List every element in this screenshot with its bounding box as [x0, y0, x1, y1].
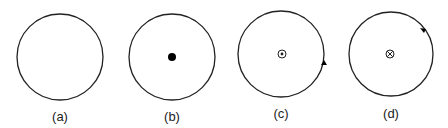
- circle-d: [349, 12, 433, 96]
- circle-a: [17, 14, 103, 100]
- filled-dot-icon: [168, 53, 176, 61]
- panel-c: (c): [238, 11, 327, 121]
- label-b: (b): [164, 109, 180, 124]
- panel-a: (a): [17, 14, 103, 124]
- dot-in-circle-icon: [278, 50, 286, 58]
- cross-in-circle-icon: [386, 50, 394, 58]
- label-c: (c): [273, 106, 288, 121]
- label-a: (a): [52, 109, 68, 124]
- figure: (a) (b) (c) (d): [0, 0, 448, 128]
- label-d: (d): [383, 106, 399, 121]
- panel-b: (b): [129, 14, 215, 124]
- panel-d: (d): [349, 12, 433, 121]
- arrowhead-icon: [321, 60, 327, 65]
